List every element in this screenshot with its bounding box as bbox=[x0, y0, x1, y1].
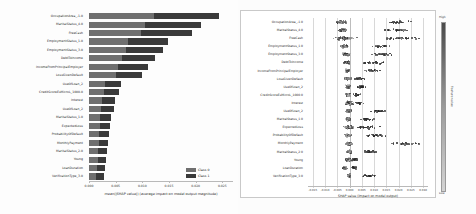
bar-segment-class1 bbox=[145, 22, 201, 28]
bar-row bbox=[89, 71, 233, 79]
beeswarm-point bbox=[393, 143, 395, 145]
beeswarm-feature-label: LoanDuration bbox=[244, 164, 306, 172]
beeswarm-point bbox=[377, 70, 379, 72]
beeswarm-point bbox=[353, 127, 355, 129]
beeswarm-point bbox=[345, 68, 347, 70]
bar-segment-class0 bbox=[89, 47, 126, 53]
beeswarm-point bbox=[353, 102, 355, 104]
beeswarm-point bbox=[364, 62, 366, 64]
beeswarm-point bbox=[372, 62, 374, 64]
beeswarm-point bbox=[395, 22, 397, 24]
bar-segment-class1 bbox=[122, 55, 155, 61]
beeswarm-x-tick-label: 0.030 bbox=[419, 188, 427, 192]
bar-segment-class0 bbox=[89, 38, 128, 44]
beeswarm-point bbox=[364, 118, 366, 120]
beeswarm-feature-label: MaritalStatus_4.0 bbox=[244, 26, 306, 34]
bar-feature-label: ExpectedLoss bbox=[0, 122, 86, 130]
beeswarm-point bbox=[391, 22, 393, 24]
beeswarm-point bbox=[342, 21, 344, 23]
bar-segment-class0 bbox=[89, 165, 97, 171]
bar-x-tick-mark bbox=[222, 181, 223, 183]
beeswarm-x-tick-label: -0.010 bbox=[321, 188, 330, 192]
beeswarm-row bbox=[308, 140, 428, 148]
beeswarm-point bbox=[383, 53, 385, 55]
beeswarm-feature-label: EmploymentStatus_1.0 bbox=[244, 42, 306, 50]
beeswarm-point bbox=[350, 78, 352, 80]
beeswarm-points-area bbox=[308, 18, 428, 188]
bar-segment-class0 bbox=[89, 140, 99, 146]
bar-segment-class0 bbox=[89, 55, 122, 61]
bar-segment-class1 bbox=[128, 38, 167, 44]
beeswarm-point bbox=[379, 70, 381, 72]
beeswarm-point bbox=[376, 111, 378, 113]
beeswarm-feature-label: Young bbox=[244, 156, 306, 164]
legend-label: Class 0 bbox=[198, 168, 209, 172]
bar-row bbox=[89, 63, 233, 71]
legend-swatch bbox=[186, 168, 196, 171]
bar-feature-label: ProbabilityOfDefault bbox=[0, 130, 86, 138]
beeswarm-row bbox=[308, 75, 428, 83]
beeswarm-row bbox=[308, 42, 428, 50]
bar-feature-label: EmploymentStatus_1.0 bbox=[0, 37, 86, 45]
beeswarm-point bbox=[364, 78, 366, 80]
beeswarm-feature-label: ExpectedLoss bbox=[244, 123, 306, 131]
beeswarm-point bbox=[407, 144, 409, 146]
beeswarm-row bbox=[308, 34, 428, 42]
shap-figure-container: OccupationArea_-1.0MaritalStatus_4.0Free… bbox=[0, 0, 476, 214]
beeswarm-point bbox=[382, 111, 384, 113]
beeswarm-feature-label: OccupationArea_-1.0 bbox=[244, 18, 306, 26]
beeswarm-x-axis-title: SHAP value (impact on model output) bbox=[308, 194, 428, 198]
beeswarm-x-tick-label: 0.025 bbox=[407, 188, 415, 192]
beeswarm-row bbox=[308, 83, 428, 91]
shap-beeswarm-panel: OccupationArea_-1.0MaritalStatus_4.0Free… bbox=[238, 0, 476, 214]
bar-segment-class0 bbox=[89, 123, 100, 129]
beeswarm-point bbox=[393, 21, 395, 23]
beeswarm-point bbox=[418, 38, 420, 40]
bar-segment-class0 bbox=[89, 72, 116, 78]
beeswarm-point bbox=[373, 118, 375, 120]
beeswarm-point bbox=[345, 22, 347, 24]
beeswarm-point bbox=[368, 175, 370, 177]
bar-x-tick-label: 0.010 bbox=[138, 184, 147, 188]
legend-swatch bbox=[186, 174, 196, 177]
beeswarm-point bbox=[408, 37, 410, 39]
bar-row bbox=[89, 155, 233, 163]
beeswarm-point bbox=[411, 37, 413, 39]
bar-row bbox=[89, 139, 233, 147]
beeswarm-point bbox=[414, 37, 416, 39]
beeswarm-x-tick-label: 0.020 bbox=[395, 188, 403, 192]
legend-entry[interactable]: Class 1 bbox=[186, 173, 209, 179]
bar-feature-label: MaritalStatus_4.0 bbox=[0, 20, 86, 28]
beeswarm-point bbox=[344, 61, 346, 63]
bar-segment-class1 bbox=[105, 81, 121, 87]
bar-segment-class0 bbox=[89, 81, 105, 87]
bar-row bbox=[89, 46, 233, 54]
beeswarm-x-tick-label: 0.005 bbox=[358, 188, 366, 192]
beeswarm-point bbox=[376, 54, 378, 56]
beeswarm-point bbox=[368, 135, 370, 137]
beeswarm-row bbox=[308, 115, 428, 123]
beeswarm-point bbox=[351, 143, 353, 145]
bar-feature-label: Interest bbox=[0, 96, 86, 104]
beeswarm-point bbox=[379, 134, 381, 136]
beeswarm-point bbox=[360, 119, 362, 121]
bar-row bbox=[89, 96, 233, 104]
beeswarm-point bbox=[404, 29, 406, 31]
bar-x-tick-mark bbox=[142, 181, 143, 183]
beeswarm-point bbox=[398, 30, 400, 32]
bar-feature-label: LossGivenDefault bbox=[0, 71, 86, 79]
bar-x-tick-label: 0.020 bbox=[191, 184, 200, 188]
beeswarm-point bbox=[372, 151, 374, 153]
beeswarm-point bbox=[385, 46, 387, 48]
bar-feature-label: OccupationArea_-1.0 bbox=[0, 12, 86, 20]
beeswarm-row bbox=[308, 131, 428, 139]
beeswarm-point bbox=[390, 30, 392, 32]
beeswarm-point bbox=[381, 135, 383, 137]
bar-feature-label: CreditScoreEsMicroL_1000.0 bbox=[0, 88, 86, 96]
bar-row bbox=[89, 20, 233, 28]
beeswarm-feature-label: LossGivenDefault bbox=[244, 75, 306, 83]
colorbar-high-label: High bbox=[439, 15, 446, 19]
beeswarm-point bbox=[372, 46, 374, 48]
beeswarm-point bbox=[356, 37, 358, 39]
beeswarm-point bbox=[404, 144, 406, 146]
